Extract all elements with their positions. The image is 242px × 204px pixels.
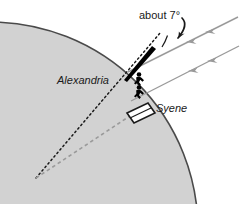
eratosthenes-diagram: about 7° Alexandria Syene [0,0,242,204]
angle-label: about 7° [139,9,180,21]
alexandria-label: Alexandria [56,74,109,86]
syene-label: Syene [156,102,187,114]
